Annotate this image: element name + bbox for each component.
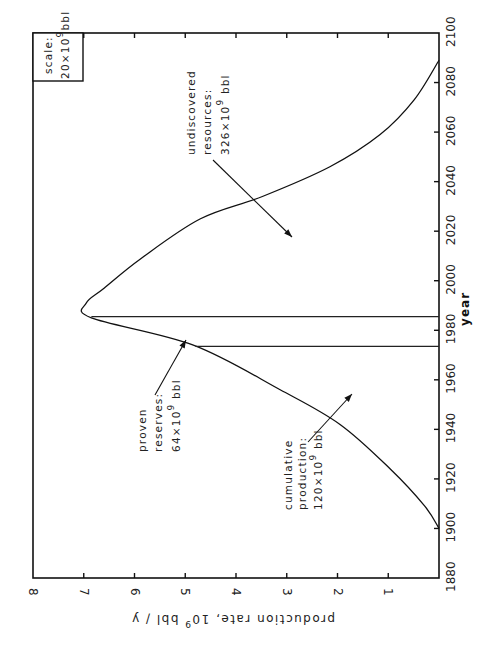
- rate-tick-label: 7: [77, 588, 91, 596]
- year-tick-label: 1980: [444, 314, 458, 345]
- cumulative-label-line1: cumulative: [282, 440, 294, 510]
- rate-tick-label: 3: [280, 588, 294, 596]
- scale-label: scale:: [42, 36, 54, 74]
- rate-tick-label: 2: [331, 588, 345, 596]
- year-tick-label: 2080: [444, 66, 458, 97]
- year-tick-label: 2040: [444, 165, 458, 196]
- proven-value: 64×109 bbl: [166, 379, 182, 452]
- year-tick-label: 2020: [444, 215, 458, 246]
- chart: 1880190019201940196019802000202020402060…: [0, 0, 486, 655]
- year-tick-label: 2060: [444, 116, 458, 147]
- undiscovered-label-line1: undiscovered: [185, 70, 197, 155]
- year-tick-label: 1960: [444, 363, 458, 394]
- year-tick-label: 2000: [444, 264, 458, 295]
- rate-tick-label: 6: [128, 588, 142, 596]
- proven-label-line2: reserves:: [152, 393, 164, 452]
- y-axis-title: production rate, 109 bbl / y: [131, 612, 335, 629]
- scale-box: [33, 33, 83, 81]
- year-tick-label: 1900: [444, 512, 458, 543]
- plot-frame: [33, 33, 439, 578]
- proven-label-line1: proven: [136, 408, 148, 452]
- undiscovered-label-line2: resources:: [201, 89, 213, 155]
- cumulative-value: 120×109 bbl: [308, 429, 324, 510]
- year-tick-label: 1920: [444, 462, 458, 493]
- cumulative-label-line2: production:: [296, 437, 308, 510]
- undiscovered-value: 326×109 bbl: [215, 74, 231, 155]
- undiscovered-arrow: [213, 160, 292, 237]
- rate-tick-label: 1: [381, 588, 395, 596]
- year-tick-label: 1940: [444, 413, 458, 444]
- rate-tick-label: 5: [178, 588, 192, 596]
- rate-tick-label: 4: [229, 588, 243, 596]
- production-curve: [81, 60, 439, 528]
- plot-area: 1880190019201940196019802000202020402060…: [26, 11, 472, 629]
- year-tick-label: 1880: [444, 561, 458, 592]
- x-axis-title: year: [458, 292, 472, 326]
- rate-tick-label: 8: [26, 588, 40, 596]
- year-tick-label: 2100: [444, 16, 458, 47]
